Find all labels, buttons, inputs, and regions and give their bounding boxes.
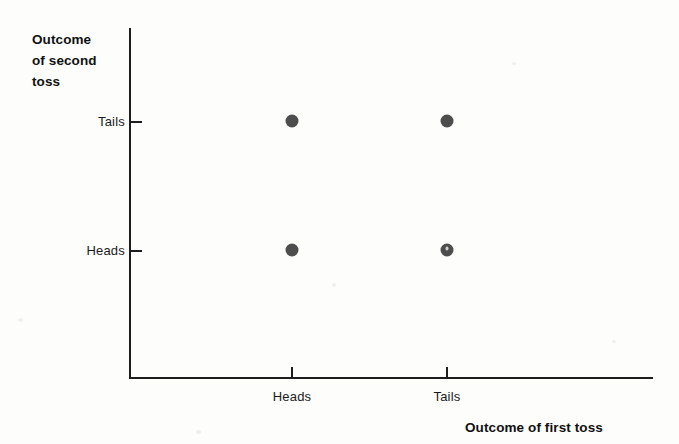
scan-speckle [332,283,336,287]
y-axis-title: Outcome of second toss [32,29,124,92]
y-axis-line [129,28,131,379]
y-axis-title-line-2: of second [32,50,124,71]
x-tick-label-tails: Tails [433,389,460,404]
y-tick-label-tails: Tails [98,114,125,129]
x-tick-label-heads: Heads [273,389,312,404]
x-tick-mark-tails [446,367,448,378]
point-heads-heads [286,244,299,257]
y-tick-mark-tails [131,121,142,123]
scan-speckle [18,318,23,322]
x-axis-title: Outcome of first toss [465,420,603,435]
y-tick-label-heads: Heads [86,243,125,258]
scan-speckle [612,340,616,343]
y-axis-title-line-1: Outcome [32,29,124,50]
y-tick-mark-heads [131,250,142,252]
x-axis-line [129,377,653,379]
point-heads-tails [286,115,299,128]
scan-speckle [512,62,516,65]
x-tick-mark-heads [291,367,293,378]
scan-speckle [196,430,201,434]
y-axis-title-line-3: toss [32,71,124,92]
point-tails-tails [441,115,454,128]
point-tails-heads [441,244,454,257]
scatter-plot-figure: Outcome of second toss Outcome of first … [0,0,679,444]
